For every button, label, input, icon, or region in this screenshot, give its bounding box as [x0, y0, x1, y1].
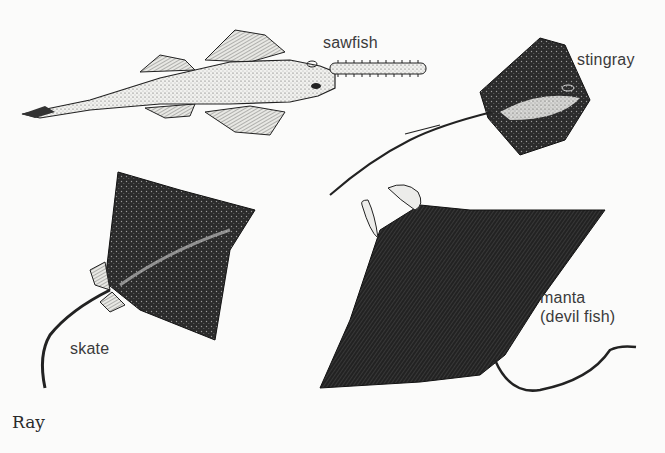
stingray-drawing	[330, 38, 590, 195]
manta-label-line1: manta	[540, 288, 615, 307]
manta-label: manta (devil fish)	[540, 288, 615, 326]
sawfish-label: sawfish	[323, 33, 378, 52]
skate-label: skate	[70, 339, 109, 358]
illustration-canvas	[0, 0, 665, 453]
stingray-label: stingray	[577, 50, 635, 69]
figure-caption: Ray	[12, 412, 45, 432]
manta-label-line2: (devil fish)	[540, 307, 615, 326]
ray-illustration-figure: sawfish stingray skate manta (devil fish…	[0, 0, 665, 453]
